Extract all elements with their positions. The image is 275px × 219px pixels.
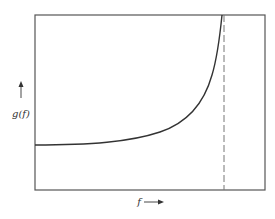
y-arrow-head-icon <box>19 81 24 87</box>
x-arrow-head-icon <box>158 200 164 205</box>
curve-g-of-f <box>35 15 222 145</box>
x-axis-label-group: f <box>136 196 164 207</box>
y-axis-label-group: g(f) <box>12 81 30 119</box>
diagram: g(f) f <box>0 0 275 219</box>
plot-frame <box>35 15 265 190</box>
x-axis-label: f <box>136 196 143 207</box>
y-axis-label: g(f) <box>12 108 30 119</box>
